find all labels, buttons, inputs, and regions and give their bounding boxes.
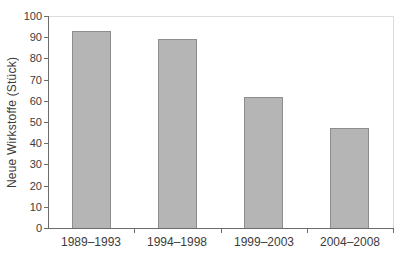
y-tick-label: 10 bbox=[0, 201, 42, 213]
y-tick bbox=[44, 143, 48, 144]
bar-chart: Neue Wirkstoffe (Stück) 0102030405060708… bbox=[0, 0, 409, 257]
y-axis-line bbox=[48, 16, 49, 229]
y-tick-label: 30 bbox=[0, 158, 42, 170]
y-tick bbox=[44, 37, 48, 38]
y-tick-label: 100 bbox=[0, 10, 42, 22]
y-tick-label: 70 bbox=[0, 74, 42, 86]
y-tick-label: 90 bbox=[0, 31, 42, 43]
bar-1994-1998 bbox=[158, 39, 197, 228]
y-tick bbox=[44, 101, 48, 102]
y-tick bbox=[44, 186, 48, 187]
x-category-label: 2004–2008 bbox=[307, 235, 393, 249]
bar-2004-2008 bbox=[330, 128, 369, 228]
y-tick bbox=[44, 122, 48, 123]
x-tick bbox=[221, 229, 222, 233]
y-tick bbox=[44, 16, 48, 17]
y-tick-label: 80 bbox=[0, 52, 42, 64]
x-tick bbox=[393, 229, 394, 233]
x-category-label: 1999–2003 bbox=[221, 235, 307, 249]
plot-frame-right bbox=[393, 16, 394, 228]
x-category-label: 1989–1993 bbox=[48, 235, 134, 249]
y-tick-label: 0 bbox=[0, 222, 42, 234]
y-tick-label: 50 bbox=[0, 116, 42, 128]
y-tick bbox=[44, 58, 48, 59]
y-tick-label: 40 bbox=[0, 137, 42, 149]
y-tick bbox=[44, 228, 48, 229]
plot-frame-top bbox=[48, 16, 393, 17]
y-tick bbox=[44, 207, 48, 208]
bar-1989-1993 bbox=[72, 31, 111, 228]
x-category-label: 1994–1998 bbox=[134, 235, 220, 249]
y-tick bbox=[44, 80, 48, 81]
y-tick-label: 20 bbox=[0, 180, 42, 192]
x-tick bbox=[134, 229, 135, 233]
x-tick bbox=[307, 229, 308, 233]
y-tick-label: 60 bbox=[0, 95, 42, 107]
y-tick bbox=[44, 164, 48, 165]
bar-1999-2003 bbox=[244, 97, 283, 228]
